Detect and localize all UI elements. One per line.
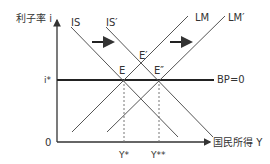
is-label: IS xyxy=(71,17,80,28)
lm-curve xyxy=(72,16,188,132)
y-axis-label: 利子率 i xyxy=(16,12,52,24)
y-star-label: Y* xyxy=(118,150,129,160)
is-shifted-label: IS′ xyxy=(106,17,118,28)
point-e-double-prime-label: E″ xyxy=(154,65,164,76)
lm-shifted-label: LM′ xyxy=(228,12,245,23)
i-star-label: i* xyxy=(44,75,52,85)
x-axis-label: 国民所得 Y xyxy=(213,137,263,148)
is-lm-bp-diagram: 利子率 i 国民所得 Y 0 i* Y* Y** IS IS′ LM LM′ B… xyxy=(0,0,270,164)
origin-label: 0 xyxy=(45,137,51,148)
point-e-prime-label: E′ xyxy=(139,50,148,61)
bp-label: BP=0 xyxy=(217,74,245,85)
point-e-label: E xyxy=(119,65,125,76)
y-double-star-label: Y** xyxy=(150,150,166,160)
lm-label: LM xyxy=(195,12,209,23)
